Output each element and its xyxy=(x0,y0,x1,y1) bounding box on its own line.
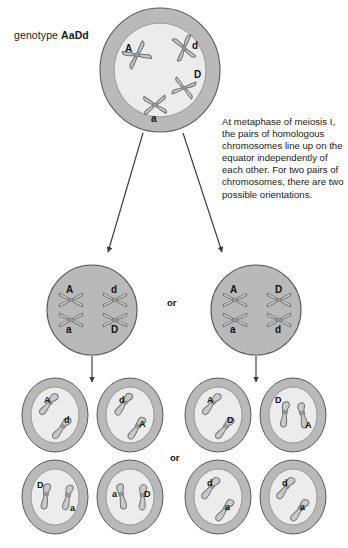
gamete-cell-2-graphic xyxy=(97,378,163,452)
parent-chromosome-label-d: d xyxy=(192,41,198,51)
metaphase-right-d: d xyxy=(275,325,281,335)
gamete-cell-3-graphic xyxy=(22,460,88,534)
parent-chromosome-label-a: a xyxy=(151,114,157,124)
gamete-cell-3-label-2: a xyxy=(70,504,75,513)
metaphase-right-D: D xyxy=(275,285,282,295)
metaphase-right-a: a xyxy=(230,325,236,335)
gamete-cell-2-label-2: A xyxy=(139,420,146,429)
gamete-cell-6-graphic xyxy=(260,378,326,452)
gamete-cell-8-graphic xyxy=(260,460,326,534)
gamete-cell-5-label-2: D xyxy=(227,416,234,425)
gamete-cell-1-label-1: A xyxy=(44,396,51,405)
gamete-cell-1-graphic xyxy=(22,378,88,452)
parent-chromosome-label-D: D xyxy=(194,70,201,80)
metaphase-right-A: A xyxy=(230,285,237,295)
gamete-cell-6-label-1: D xyxy=(275,396,282,405)
metaphase-left-A: A xyxy=(66,285,73,295)
gamete-cell-4-graphic xyxy=(97,460,163,534)
gamete-cell-7-graphic xyxy=(185,460,251,534)
gamete-cell-8-label-2: a xyxy=(300,503,305,512)
arrow-parent-to-left-metaphase xyxy=(108,133,143,252)
genotype-prefix: genotype xyxy=(14,29,61,41)
metaphase-or-label: or xyxy=(167,297,177,308)
metaphase-cell-left-graphic xyxy=(47,265,137,355)
genotype-value: AaDd xyxy=(61,29,89,41)
metaphase-left-d: d xyxy=(111,285,117,295)
gamete-cell-3-label-1: D xyxy=(37,481,44,490)
arrow-parent-to-right-metaphase xyxy=(183,133,222,252)
parent-cell-graphic xyxy=(100,8,220,132)
gamete-cell-7-label-1: d xyxy=(207,479,213,488)
gamete-cell-4-label-1: a xyxy=(112,490,117,499)
meiosis-independent-assortment-diagram: genotype AaDd At metaphase of meiosis I,… xyxy=(0,0,348,548)
metaphase-left-D: D xyxy=(111,325,118,335)
gamete-cell-6-label-2: A xyxy=(305,421,312,430)
explanatory-note: At metaphase of meiosis I, the pairs of … xyxy=(222,116,344,201)
gamete-cell-4-label-2: D xyxy=(144,490,151,499)
gamete-cell-1-label-2: d xyxy=(64,416,70,425)
gamete-cell-2-label-1: d xyxy=(119,396,125,405)
metaphase-left-a: a xyxy=(66,325,72,335)
diagram-graphics xyxy=(0,0,348,548)
gamete-cell-8-label-1: d xyxy=(282,479,288,488)
gamete-cell-7-label-2: a xyxy=(225,503,230,512)
genotype-label: genotype AaDd xyxy=(14,29,89,41)
parent-chromosome-label-A: A xyxy=(125,44,132,54)
gamete-cell-5-graphic xyxy=(185,378,251,452)
gamete-or-label: or xyxy=(170,452,180,463)
metaphase-cell-right-graphic xyxy=(211,265,301,355)
gamete-cell-5-label-1: A xyxy=(207,396,214,405)
